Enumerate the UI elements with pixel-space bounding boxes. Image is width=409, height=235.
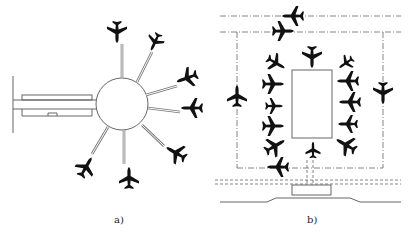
- aircraft-icon: [302, 46, 322, 68]
- aircraft-icon: [331, 131, 360, 159]
- aircraft-icon: [373, 82, 393, 104]
- aircraft-icon: [260, 132, 289, 160]
- aircraft-icon: [143, 30, 166, 54]
- aircraft-icon: [263, 50, 289, 75]
- aircraft-icon: [282, 6, 304, 26]
- aircraft-icon: [267, 157, 289, 177]
- caption-b: b): [307, 214, 317, 225]
- satellite-building: [96, 78, 148, 130]
- aircraft-icon: [227, 85, 247, 107]
- aircraft-icon: [107, 21, 127, 43]
- main-terminal: [292, 185, 331, 195]
- aircraft-icon: [119, 167, 139, 189]
- diagram-canvas: [0, 0, 409, 235]
- aircraft-icon: [181, 98, 203, 118]
- aircraft-icon: [265, 98, 283, 114]
- aircraft-icon: [173, 65, 201, 91]
- aircraft-icon: [72, 152, 100, 181]
- aircraft-icon: [339, 92, 361, 112]
- satellite-building: [292, 70, 332, 138]
- connector-corridor: [13, 95, 97, 116]
- aircraft-icon: [338, 115, 358, 133]
- caption-a: a): [114, 214, 124, 225]
- panel-a: [13, 21, 203, 189]
- landside-road: [220, 198, 401, 202]
- aircraft-icon: [262, 116, 284, 136]
- aircraft-icon: [306, 142, 321, 159]
- aircraft-icon: [272, 21, 294, 41]
- aircraft-icon: [262, 74, 284, 94]
- aircraft-icon: [335, 52, 357, 74]
- service-road: [215, 160, 401, 184]
- panel-b: [215, 6, 401, 202]
- aircraft-icon: [337, 71, 359, 91]
- aircraft-icon: [161, 139, 190, 167]
